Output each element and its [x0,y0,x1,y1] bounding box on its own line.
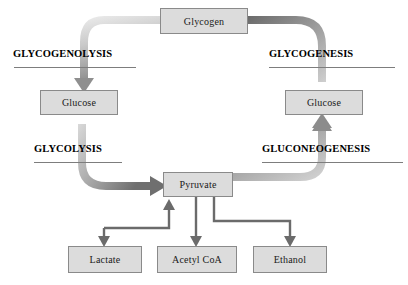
node-lactate[interactable]: Lactate [68,246,142,273]
connector-pyruvate-to-ethanol [214,196,290,238]
rule-glycogenesis [269,67,395,68]
node-pyruvate[interactable]: Pyruvate [163,172,233,197]
rule-gluconeogenesis [262,162,403,163]
label-gluconeogenesis: GLUCONEOGENESIS [262,143,370,154]
rule-glycolysis [34,162,122,163]
connector-lactate-to-pyruvate [104,210,169,228]
label-glycogenesis: GLYCOGENESIS [269,48,353,59]
node-acetyl-coa[interactable]: Acetyl CoA [157,246,237,273]
rule-glycogenolysis [14,67,136,68]
node-ethanol[interactable]: Ethanol [253,246,327,273]
node-glucose-right[interactable]: Glucose [285,90,363,115]
label-glycolysis: GLYCOLYSIS [34,143,102,154]
node-glucose-left[interactable]: Glucose [40,90,118,115]
flow-glucose-to-pyruvate [78,124,167,196]
node-glycogen[interactable]: Glycogen [160,8,248,34]
arrowhead-into-pyruvate [163,199,175,210]
metabolism-diagram: Glycogen Glucose Glucose Pyruvate Lactat… [0,0,408,285]
label-glycogenolysis: GLYCOGENOLYSIS [13,48,112,59]
